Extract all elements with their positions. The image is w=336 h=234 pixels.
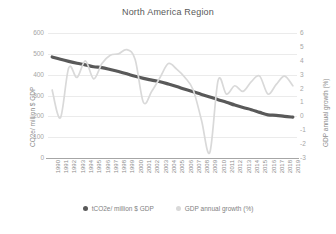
x-axis-tick-label: 2017 — [279, 160, 285, 173]
x-axis-tick-label: 1992 — [71, 160, 77, 173]
y-axis-right-tick-label: 5 — [300, 43, 320, 50]
legend-label: tCO2e/ million $ GDP — [92, 205, 154, 212]
x-axis-tick-label: 2013 — [246, 160, 252, 173]
x-axis-tick-label: 2007 — [196, 160, 202, 173]
y-axis-right-tick-label: 6 — [300, 29, 320, 36]
y-axis-right-tick-label: 3 — [300, 71, 320, 78]
x-axis-tick-label: 1998 — [121, 160, 127, 173]
x-axis-tick-label: 1995 — [96, 160, 102, 173]
x-axis-labels: 1990199119921993199419951996199719981999… — [48, 160, 297, 198]
x-axis-tick-label: 1991 — [63, 160, 69, 173]
y-axis-right-tick-label: -1 — [300, 126, 320, 133]
x-axis-tick-label: 1993 — [80, 160, 86, 173]
y-axis-right-tick-label: -3 — [300, 154, 320, 161]
series-layer — [48, 33, 297, 158]
plot-area — [48, 33, 297, 158]
x-axis-tick-label: 2009 — [212, 160, 218, 173]
x-axis-tick-label: 2002 — [154, 160, 160, 173]
x-axis-tick-label: 2001 — [146, 160, 152, 173]
y-axis-right-tick-label: 2 — [300, 85, 320, 92]
x-axis-tick-label: 1990 — [55, 160, 61, 173]
y-axis-left-tick-label: 300 — [20, 92, 44, 99]
y-axis-left-tick-label: 600 — [20, 29, 44, 36]
y-axis-left-tick-label: 400 — [20, 71, 44, 78]
series-line — [52, 50, 293, 154]
y-axis-right-tick-label: 4 — [300, 57, 320, 64]
y-axis-right-tick-label: -2 — [300, 140, 320, 147]
x-axis-tick-label: 2008 — [204, 160, 210, 173]
legend-marker-icon — [176, 206, 181, 211]
x-axis-tick-label: 1999 — [129, 160, 135, 173]
x-axis-tick-label: 2005 — [179, 160, 185, 173]
legend-item[interactable]: tCO2e/ million $ GDP — [83, 205, 154, 212]
x-axis-tick-label: 2018 — [287, 160, 293, 173]
legend-item[interactable]: GDP annual growth (%) — [176, 205, 254, 212]
chart-container: North America Region CO2e/ million $ GDP… — [0, 0, 336, 234]
y-axis-left-tick-label: 200 — [20, 112, 44, 119]
legend-label: GDP annual growth (%) — [185, 205, 254, 212]
x-axis-line — [46, 158, 299, 159]
x-axis-tick-label: 1996 — [105, 160, 111, 173]
legend-marker-icon — [83, 206, 88, 211]
x-axis-tick-label: 2000 — [138, 160, 144, 173]
y-axis-left-tick-label: 500 — [20, 50, 44, 57]
x-axis-tick-label: 2004 — [171, 160, 177, 173]
y-axis-right-title: GDP annual growth (%) — [322, 78, 329, 147]
x-axis-tick-label: 2016 — [271, 160, 277, 173]
y-axis-right-tick-label: 1 — [300, 98, 320, 105]
y-axis-left-tick-label: 0 — [20, 154, 44, 161]
x-axis-tick-label: 1997 — [113, 160, 119, 173]
y-axis-right-tick-label: 0 — [300, 112, 320, 119]
x-axis-tick-label: 2019 — [295, 160, 301, 173]
x-axis-tick-label: 2014 — [254, 160, 260, 173]
y-axis-left-tick-label: 100 — [20, 133, 44, 140]
x-axis-tick-label: 1994 — [88, 160, 94, 173]
chart-legend: tCO2e/ million $ GDPGDP annual growth (%… — [0, 205, 336, 212]
x-axis-tick-label: 2006 — [188, 160, 194, 173]
x-axis-tick-label: 2011 — [229, 160, 235, 173]
x-axis-tick-label: 2003 — [163, 160, 169, 173]
x-axis-tick-label: 2010 — [221, 160, 227, 173]
x-axis-tick-label: 2015 — [262, 160, 268, 173]
chart-title: North America Region — [0, 7, 336, 17]
x-axis-tick-label: 2012 — [237, 160, 243, 173]
